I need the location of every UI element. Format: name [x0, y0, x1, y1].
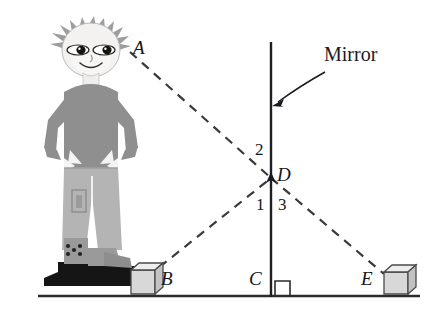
angle-label-3: 3 — [278, 196, 287, 213]
ray-a-to-d — [130, 52, 271, 178]
person-figure — [44, 16, 140, 286]
eye-right — [93, 45, 115, 55]
ray-b-to-d — [147, 178, 271, 277]
point-label-c: C — [249, 269, 262, 288]
pocket-inner — [76, 195, 82, 208]
boot-left — [44, 238, 92, 286]
right-angle-mark-c — [275, 281, 290, 296]
point-label-b: B — [161, 269, 173, 288]
ray-d-to-e — [271, 178, 384, 274]
mirror-pointer-arrow — [272, 72, 325, 107]
point-label-a: A — [133, 38, 145, 57]
point-label-d: D — [277, 165, 291, 184]
mirror-ray-diagram: Mirror A B C D E 2 1 3 — [0, 0, 442, 318]
mirror-label: Mirror — [324, 44, 377, 64]
angle-label-2: 2 — [255, 141, 264, 158]
point-label-e: E — [361, 269, 373, 288]
eye-left — [67, 45, 89, 55]
angle-label-1: 1 — [256, 196, 265, 213]
box-b — [131, 263, 163, 294]
box-e — [384, 265, 416, 294]
